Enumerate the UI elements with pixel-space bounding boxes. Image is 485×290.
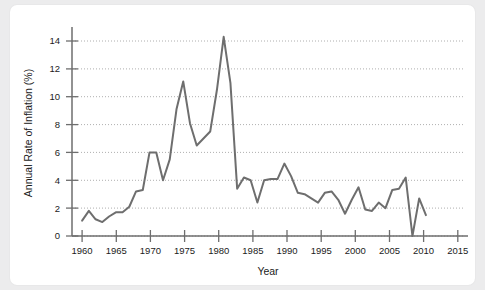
y-tick-labels: 0 2 4 6 8 10 12 14 xyxy=(49,35,60,241)
y-tick-label: 0 xyxy=(55,230,60,241)
x-tick-label: 1970 xyxy=(140,245,161,256)
x-tick-labels: 1960 1965 1970 1975 1980 1985 1990 1995 … xyxy=(72,245,469,256)
x-tick-label: 1980 xyxy=(208,245,229,256)
x-tick-label: 2010 xyxy=(413,245,434,256)
y-axis-title: Annual Rate of Inflation (%) xyxy=(22,69,34,197)
y-tick-label: 12 xyxy=(49,63,60,74)
y-tick-label: 14 xyxy=(49,35,60,46)
x-tick-label: 1960 xyxy=(72,245,93,256)
inflation-line-chart: 0 2 4 6 8 10 12 14 1960 1965 1970 1975 1… xyxy=(10,5,475,285)
x-tick-label: 1995 xyxy=(311,245,332,256)
y-tick-label: 2 xyxy=(55,203,60,214)
y-tick-label: 6 xyxy=(55,147,60,158)
y-tick-label: 4 xyxy=(55,175,60,186)
x-axis-title: Year xyxy=(257,265,279,277)
x-tick-label: 2005 xyxy=(379,245,400,256)
inflation-series-line xyxy=(82,37,426,236)
x-tick-label: 1990 xyxy=(276,245,297,256)
y-tick-label: 10 xyxy=(49,91,60,102)
x-tick-label: 1975 xyxy=(174,245,195,256)
x-tick-label: 2015 xyxy=(447,245,468,256)
x-tick-label: 1985 xyxy=(242,245,263,256)
y-tick-label: 8 xyxy=(55,119,60,130)
x-tick-label: 1965 xyxy=(106,245,127,256)
chart-card: 0 2 4 6 8 10 12 14 1960 1965 1970 1975 1… xyxy=(10,5,475,285)
grid-lines xyxy=(72,41,463,236)
x-tick-label: 2000 xyxy=(345,245,366,256)
